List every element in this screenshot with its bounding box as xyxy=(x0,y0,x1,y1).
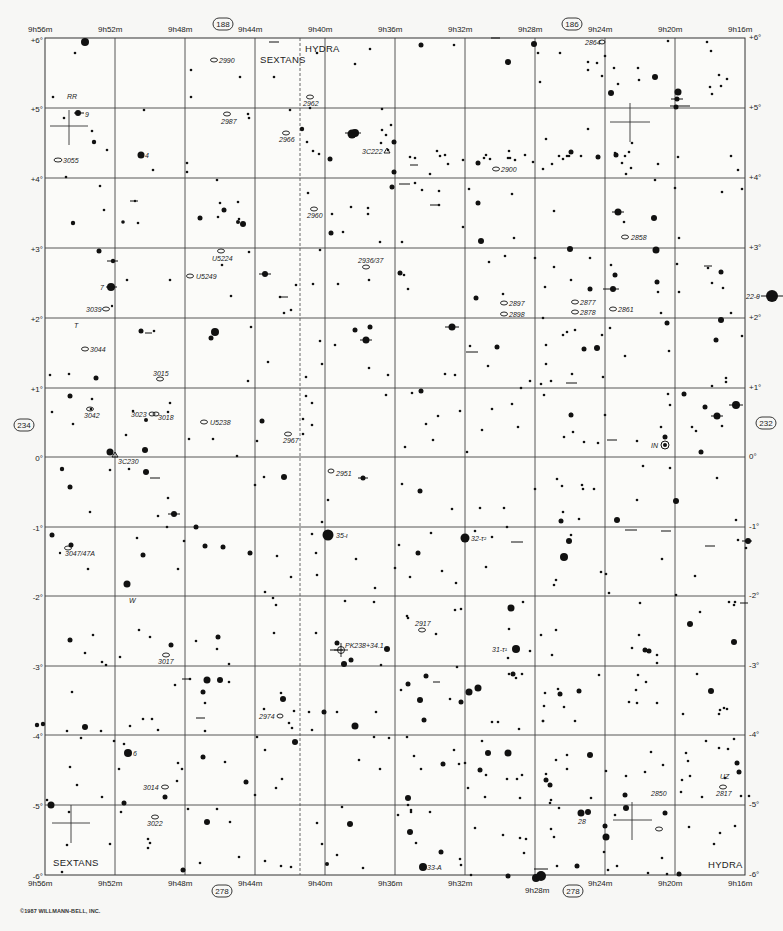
svg-text:9h44m: 9h44m xyxy=(238,25,263,34)
svg-text:33-A: 33-A xyxy=(427,864,442,871)
svg-text:2966: 2966 xyxy=(278,136,295,143)
svg-text:+5°: +5° xyxy=(31,105,43,114)
svg-text:9h28m: 9h28m xyxy=(525,886,550,895)
svg-text:-1°: -1° xyxy=(749,522,759,531)
svg-text:232: 232 xyxy=(759,419,773,428)
svg-text:9h56m: 9h56m xyxy=(28,25,53,34)
svg-text:-6°: -6° xyxy=(749,870,759,879)
svg-text:3015: 3015 xyxy=(153,370,169,377)
svg-text:+6°: +6° xyxy=(31,36,43,45)
svg-text:188: 188 xyxy=(216,20,230,29)
svg-text:234: 234 xyxy=(17,421,31,430)
constellation-sextans-top: SEXTANS xyxy=(260,54,306,65)
svg-text:2864: 2864 xyxy=(584,39,601,46)
svg-text:9h48m: 9h48m xyxy=(168,879,193,888)
adjacent-chart-186[interactable]: 186 xyxy=(562,18,582,30)
svg-text:2858: 2858 xyxy=(630,234,647,241)
svg-text:2967: 2967 xyxy=(282,437,300,444)
dec-labels-left: +6° +5° +4° +3° +2° +1° 0° -1° -2° -3° -… xyxy=(31,36,43,881)
svg-text:-5°: -5° xyxy=(749,800,759,809)
star-chart: 9h56m 9h52m 9h48m 9h44m 9h40m 9h36m 9h32… xyxy=(0,0,783,931)
svg-text:+5°: +5° xyxy=(749,103,761,112)
svg-text:-3°: -3° xyxy=(749,661,759,670)
svg-text:3C230: 3C230 xyxy=(118,458,139,465)
svg-text:3014: 3014 xyxy=(143,784,159,791)
svg-text:-5°: -5° xyxy=(33,802,43,811)
svg-text:278: 278 xyxy=(566,887,580,896)
svg-text:9h52m: 9h52m xyxy=(98,25,123,34)
svg-text:+4°: +4° xyxy=(31,175,43,184)
svg-text:-3°: -3° xyxy=(33,663,43,672)
svg-text:3047/47A: 3047/47A xyxy=(65,550,95,557)
adjacent-chart-278-left[interactable]: 278 xyxy=(212,885,232,897)
svg-text:-4°: -4° xyxy=(33,732,43,741)
svg-text:9h24m: 9h24m xyxy=(588,879,613,888)
variable-star-in-core xyxy=(663,443,667,447)
constellation-hydra-bottom: HYDRA xyxy=(708,859,743,870)
ra-labels-top: 9h56m 9h52m 9h48m 9h44m 9h40m 9h36m 9h32… xyxy=(28,25,753,34)
svg-text:2987: 2987 xyxy=(220,118,238,125)
constellation-sextans-bottom: SEXTANS xyxy=(53,857,99,868)
svg-text:2990: 2990 xyxy=(218,57,235,64)
svg-text:9h40m: 9h40m xyxy=(308,879,333,888)
svg-text:+3°: +3° xyxy=(31,245,43,254)
svg-text:+2°: +2° xyxy=(749,313,761,322)
svg-text:+1°: +1° xyxy=(31,385,43,394)
svg-text:RR: RR xyxy=(67,93,77,100)
svg-text:+2°: +2° xyxy=(31,315,43,324)
svg-text:+4°: +4° xyxy=(749,173,761,182)
svg-text:3018: 3018 xyxy=(158,414,174,421)
svg-text:U5238: U5238 xyxy=(210,419,231,426)
svg-text:3039: 3039 xyxy=(86,306,102,313)
svg-text:9h36m: 9h36m xyxy=(378,25,403,34)
svg-text:9h44m: 9h44m xyxy=(238,879,263,888)
svg-text:2974: 2974 xyxy=(258,713,275,720)
svg-text:-2°: -2° xyxy=(749,591,759,600)
svg-text:9h20m: 9h20m xyxy=(658,879,683,888)
svg-text:+3°: +3° xyxy=(749,243,761,252)
svg-text:2960: 2960 xyxy=(306,212,323,219)
svg-text:3055: 3055 xyxy=(63,157,79,164)
svg-text:31-τ¹: 31-τ¹ xyxy=(492,646,508,653)
svg-text:2898: 2898 xyxy=(508,311,525,318)
svg-text:2817: 2817 xyxy=(715,790,733,797)
svg-text:186: 186 xyxy=(565,20,579,29)
adjacent-chart-234[interactable]: 234 xyxy=(14,419,34,431)
svg-text:28: 28 xyxy=(577,818,586,825)
svg-text:9h20m: 9h20m xyxy=(658,25,683,34)
adjacent-chart-232[interactable]: 232 xyxy=(756,417,776,429)
adjacent-chart-188[interactable]: 188 xyxy=(213,18,233,30)
svg-text:35-ι: 35-ι xyxy=(336,532,348,539)
svg-text:9h40m: 9h40m xyxy=(308,25,333,34)
svg-text:2861: 2861 xyxy=(617,306,634,313)
svg-text:3042: 3042 xyxy=(84,412,100,419)
svg-text:-2°: -2° xyxy=(33,593,43,602)
svg-text:U5249: U5249 xyxy=(196,273,217,280)
dec-labels-right: +6° +5° +4° +3° +2° +1° 0° -1° -2° -3° -… xyxy=(749,33,761,879)
svg-text:2962: 2962 xyxy=(302,100,319,107)
svg-text:3C222: 3C222 xyxy=(362,148,383,155)
svg-text:-1°: -1° xyxy=(33,524,43,533)
svg-text:9h32m: 9h32m xyxy=(448,25,473,34)
svg-text:3023: 3023 xyxy=(131,411,147,418)
svg-text:278: 278 xyxy=(215,887,229,896)
svg-text:-6°: -6° xyxy=(33,872,43,881)
svg-text:9h36m: 9h36m xyxy=(378,879,403,888)
svg-text:2897: 2897 xyxy=(508,300,526,307)
adjacent-chart-278-right[interactable]: 278 xyxy=(563,885,583,897)
svg-text:9h28m: 9h28m xyxy=(518,25,543,34)
svg-text:2951: 2951 xyxy=(335,470,352,477)
svg-text:2936/37: 2936/37 xyxy=(357,257,384,264)
svg-text:9h24m: 9h24m xyxy=(588,25,613,34)
svg-text:T: T xyxy=(74,322,79,329)
svg-text:9h48m: 9h48m xyxy=(168,25,193,34)
constellation-hydra-top: HYDRA xyxy=(305,43,340,54)
svg-text:9h16m: 9h16m xyxy=(728,879,753,888)
svg-text:+1°: +1° xyxy=(749,383,761,392)
svg-text:0°: 0° xyxy=(35,454,43,463)
svg-text:32-τ²: 32-τ² xyxy=(471,535,487,542)
svg-text:3044: 3044 xyxy=(90,346,106,353)
svg-text:9h32m: 9h32m xyxy=(448,879,473,888)
svg-text:0°: 0° xyxy=(749,452,757,461)
copyright-notice: ©1987 WILLMANN-BELL, INC. xyxy=(20,908,101,914)
